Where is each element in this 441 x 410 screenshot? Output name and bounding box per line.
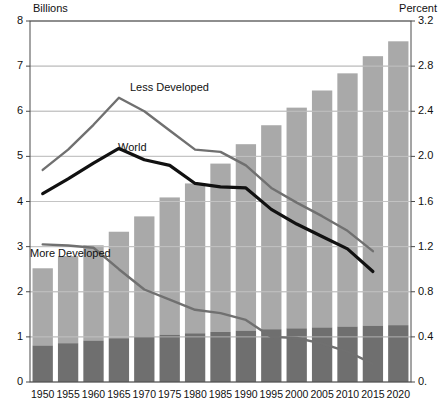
- bar-segment-less-developed: [83, 245, 103, 340]
- x-tick-label: 2020: [383, 388, 414, 400]
- bar-segment-less-developed: [58, 256, 78, 343]
- bar-segment-less-developed: [109, 232, 129, 338]
- right-tick-label: 3.2: [418, 14, 441, 26]
- bar-segment-more-developed: [363, 326, 383, 382]
- left-tick-label: 7: [0, 59, 23, 71]
- right-tick-label: 2.8: [418, 59, 441, 71]
- bar-segment-more-developed: [83, 340, 103, 382]
- population-growth-chart: Billions Percent 012345678 0.0.40.81.21.…: [0, 0, 441, 410]
- series-label-world: World: [118, 141, 147, 153]
- bar-segment-more-developed: [388, 325, 408, 382]
- right-tick-label: 0.: [418, 375, 441, 387]
- bar-segment-less-developed: [388, 41, 408, 325]
- bar-group: [33, 41, 409, 382]
- left-tick-label: 2: [0, 285, 23, 297]
- bar-segment-more-developed: [236, 331, 256, 382]
- right-tick-label: 1.2: [418, 240, 441, 252]
- bar-segment-more-developed: [185, 333, 205, 382]
- right-tick-label: 1.6: [418, 195, 441, 207]
- left-tick-label: 1: [0, 330, 23, 342]
- left-tick-label: 5: [0, 149, 23, 161]
- left-tick-label: 8: [0, 14, 23, 26]
- bar-segment-more-developed: [160, 335, 180, 382]
- plot-area: [0, 0, 441, 410]
- bar-segment-less-developed: [33, 268, 53, 345]
- series-label-more-developed: More Developed: [30, 247, 111, 259]
- bar-segment-less-developed: [287, 108, 307, 329]
- left-tick-label: 0: [0, 375, 23, 387]
- right-tick-label: 2.4: [418, 104, 441, 116]
- right-tick-label: 0.8: [418, 285, 441, 297]
- bar-segment-more-developed: [109, 338, 129, 382]
- left-tick-label: 4: [0, 195, 23, 207]
- bar-segment-more-developed: [312, 327, 332, 382]
- series-label-less-developed: Less Developed: [130, 81, 209, 93]
- left-tick-label: 3: [0, 240, 23, 252]
- left-tick-label: 6: [0, 104, 23, 116]
- bar-segment-less-developed: [210, 164, 230, 332]
- bar-segment-more-developed: [134, 336, 154, 382]
- right-tick-label: 2.0: [418, 149, 441, 161]
- right-tick-label: 0.4: [418, 330, 441, 342]
- bar-segment-more-developed: [33, 345, 53, 382]
- bar-segment-less-developed: [363, 56, 383, 325]
- bar-segment-less-developed: [160, 197, 180, 334]
- bar-segment-more-developed: [287, 328, 307, 382]
- bar-segment-less-developed: [261, 125, 281, 329]
- bar-segment-less-developed: [134, 216, 154, 336]
- bar-segment-more-developed: [210, 332, 230, 382]
- bar-segment-more-developed: [58, 343, 78, 382]
